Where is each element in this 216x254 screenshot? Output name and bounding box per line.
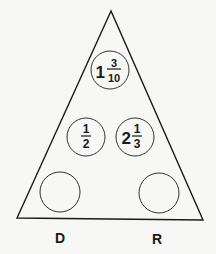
middle-right-denominator: 3 <box>134 137 141 151</box>
label-right: R <box>152 231 162 247</box>
circle-top: 1 3 10 <box>91 51 129 89</box>
circle-middle-right: 2 1 3 <box>116 118 154 156</box>
middle-right-whole: 2 <box>122 129 131 148</box>
top-denominator: 10 <box>108 72 120 84</box>
fraction-triangle-diagram: 1 3 10 1 2 2 1 3 D R <box>0 0 216 254</box>
middle-left-numerator: 1 <box>83 122 90 136</box>
top-whole: 1 <box>96 63 105 82</box>
circle-bottom-right-empty <box>139 173 179 213</box>
middle-right-numerator: 1 <box>134 122 141 136</box>
triangle-outline <box>17 11 203 220</box>
middle-left-denominator: 2 <box>83 137 90 151</box>
label-left: D <box>55 230 65 246</box>
circle-middle-left: 1 2 <box>67 118 105 156</box>
circle-bottom-left-empty <box>40 172 80 212</box>
top-numerator: 3 <box>111 57 117 69</box>
